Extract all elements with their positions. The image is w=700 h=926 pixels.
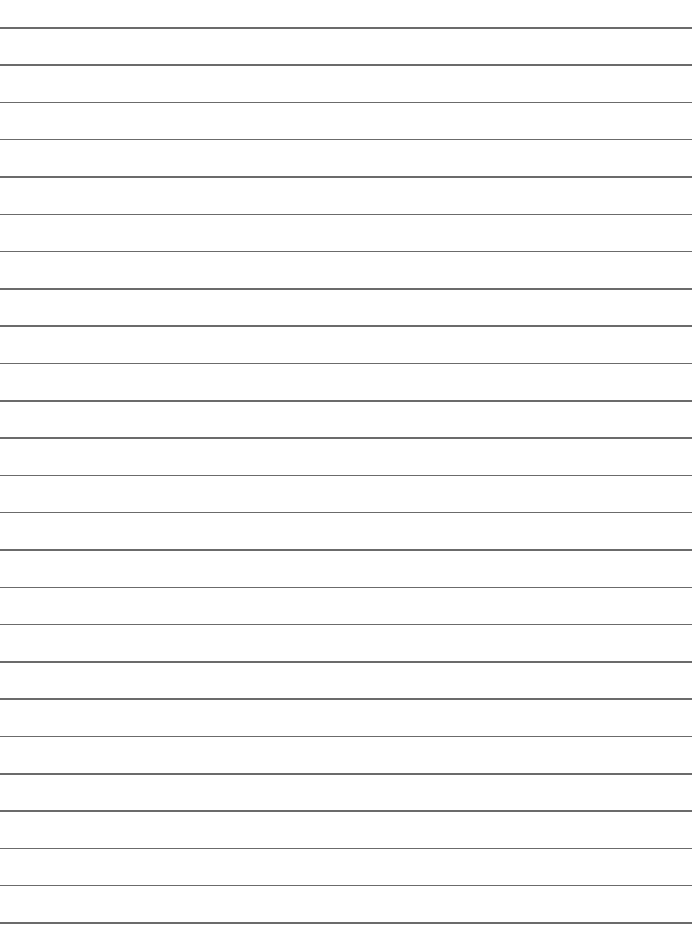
ruled-line: [0, 400, 692, 402]
ruled-line: [0, 64, 692, 66]
ruled-line: [0, 661, 692, 663]
ruled-line: [0, 139, 692, 141]
ruled-line: [0, 773, 692, 775]
ruled-line: [0, 587, 692, 589]
ruled-line: [0, 176, 692, 178]
ruled-line: [0, 437, 692, 439]
ruled-line: [0, 549, 692, 551]
ruled-line: [0, 214, 692, 216]
ruled-line: [0, 102, 692, 104]
ruled-line: [0, 251, 692, 253]
ruled-line: [0, 885, 692, 887]
ruled-line: [0, 698, 692, 700]
ruled-line: [0, 325, 692, 327]
ruled-line: [0, 512, 692, 514]
ruled-line: [0, 736, 692, 738]
ruled-line: [0, 27, 692, 29]
ruled-line: [0, 363, 692, 365]
ruled-line: [0, 810, 692, 812]
lined-paper-page: [0, 0, 700, 926]
ruled-line: [0, 848, 692, 850]
ruled-line: [0, 922, 692, 924]
ruled-line: [0, 288, 692, 290]
ruled-line: [0, 624, 692, 626]
ruled-line: [0, 475, 692, 477]
